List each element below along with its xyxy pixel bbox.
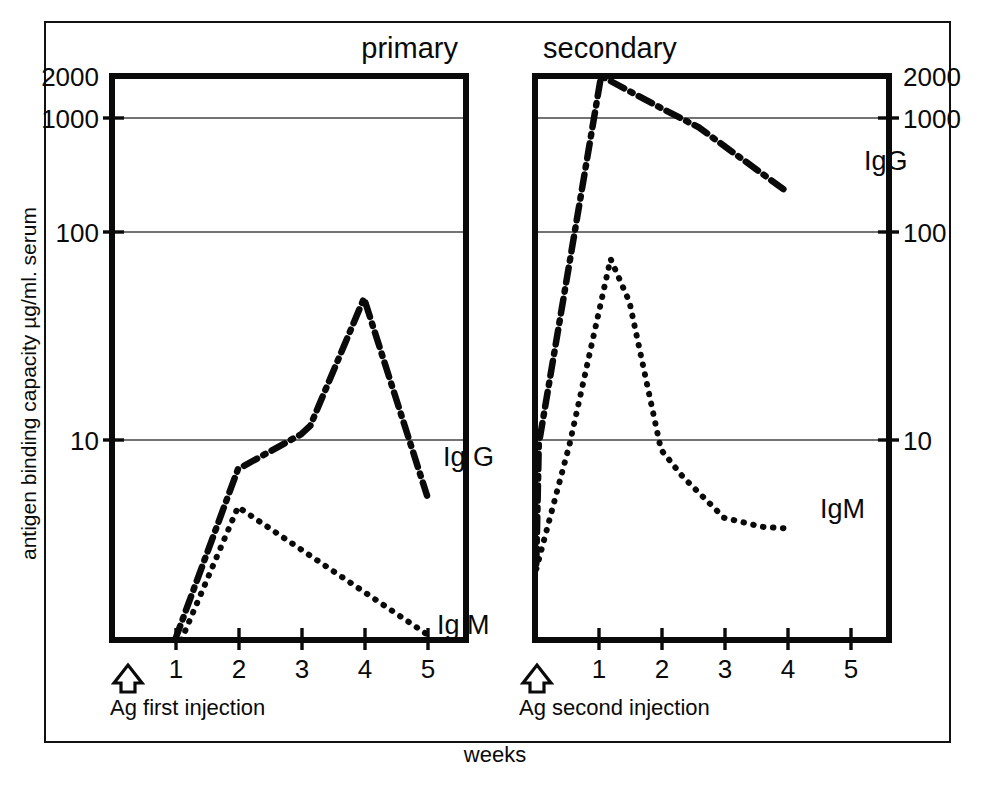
xlabel-5-secondary: 5: [844, 654, 858, 684]
series-label-igg-primary: Ig G: [443, 442, 494, 472]
ylabel-100-right: 100: [903, 218, 946, 248]
figure-border: [45, 22, 950, 742]
injection-arrow-secondary: [523, 665, 551, 692]
ylabel-1000-right: 1000: [903, 104, 961, 134]
panel-title-primary: primary: [361, 32, 458, 64]
immune-response-chart: 2000 1000 100 10 1 2 3 4 5 Ag first inje…: [0, 0, 991, 787]
ylabel-1000-left: 1000: [41, 104, 99, 134]
ylabel-2000-right: 2000: [903, 62, 961, 92]
injection-label-secondary: Ag second injection: [519, 695, 710, 720]
series-label-igm-primary: Ig M: [437, 610, 490, 640]
curve-igm-secondary: [536, 259, 787, 569]
x-axis-title: weeks: [463, 742, 526, 767]
ylabel-10-left: 10: [70, 426, 99, 456]
series-label-igg-secondary: IgG: [864, 146, 908, 176]
panel-primary: 2000 1000 100 10 1 2 3 4 5 Ag first inje…: [41, 32, 494, 720]
panel-title-secondary: secondary: [543, 32, 677, 64]
xlabel-4-secondary: 4: [781, 654, 795, 684]
xlabel-2-primary: 2: [232, 654, 246, 684]
xlabel-5-primary: 5: [421, 654, 435, 684]
xlabel-1-primary: 1: [169, 654, 183, 684]
xlabel-4-primary: 4: [358, 654, 372, 684]
panel-secondary: 2000 1000 100 10 1 2 3 4 5 Ag second inj…: [519, 32, 961, 720]
series-label-igm-secondary: IgM: [820, 494, 865, 524]
plot-frame-primary: [112, 76, 466, 640]
injection-label-primary: Ag first injection: [110, 695, 265, 720]
xlabel-2-secondary: 2: [655, 654, 669, 684]
ylabel-2000-left: 2000: [41, 62, 99, 92]
curve-igg-primary: [175, 298, 427, 640]
injection-arrow-primary: [114, 665, 142, 692]
y-axis-title: antigen binding capacity µg/ml. serum: [17, 207, 40, 560]
xlabel-3-secondary: 3: [718, 654, 732, 684]
curve-igg-secondary: [536, 76, 787, 564]
figure-root: 2000 1000 100 10 1 2 3 4 5 Ag first inje…: [0, 0, 991, 787]
xlabel-3-primary: 3: [295, 654, 309, 684]
xlabel-1-secondary: 1: [592, 654, 606, 684]
ylabel-100-left: 100: [56, 218, 99, 248]
ylabel-10-right: 10: [903, 426, 932, 456]
